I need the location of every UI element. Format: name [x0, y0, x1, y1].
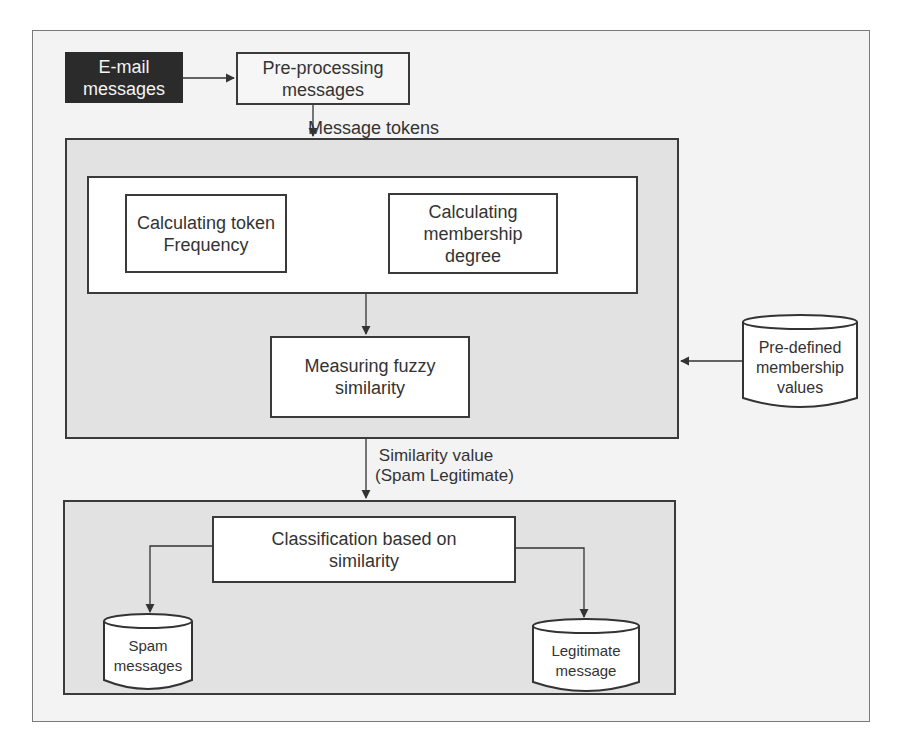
email-label-2: messages	[83, 78, 165, 100]
membership-label-2: membership	[423, 223, 522, 245]
predefined-label-1: Pre-defined	[740, 338, 860, 358]
membership-degree-node: Calculating membership degree	[388, 193, 558, 274]
message-tokens-label: Message tokens	[308, 118, 439, 138]
token-frequency-label-1: Calculating token	[137, 212, 275, 234]
classification-node: Classification based on similarity	[212, 516, 516, 583]
predefined-membership-datastore: Pre-defined membership values	[740, 312, 860, 412]
membership-label-3: degree	[445, 245, 501, 267]
token-frequency-node: Calculating token Frequency	[125, 194, 287, 273]
membership-label-1: Calculating	[428, 201, 517, 223]
classification-label-1: Classification based on	[271, 528, 456, 550]
preprocess-label-1: Pre-processing	[262, 57, 383, 79]
legitimate-message-datastore: Legitimate message	[531, 617, 641, 695]
similarity-label-1: Similarity value	[375, 446, 497, 466]
spam-label-2: messages	[102, 656, 194, 676]
similarity-value-label: Similarity value (Spam Legitimate)	[375, 446, 497, 486]
spam-label-1: Spam	[102, 636, 194, 656]
fuzzy-label-1: Measuring fuzzy	[304, 355, 435, 377]
preprocess-label-2: messages	[282, 79, 364, 101]
classification-label-2: similarity	[329, 550, 399, 572]
similarity-label-2: (Spam Legitimate)	[375, 466, 497, 486]
email-label-1: E-mail	[98, 56, 149, 78]
token-frequency-label-2: Frequency	[163, 234, 248, 256]
predefined-label-3: values	[740, 378, 860, 398]
fuzzy-similarity-node: Measuring fuzzy similarity	[270, 336, 470, 418]
legit-label-2: message	[531, 661, 641, 681]
spam-messages-datastore: Spam messages	[102, 612, 194, 694]
email-messages-node: E-mail messages	[65, 52, 183, 103]
predefined-label-2: membership	[740, 358, 860, 378]
preprocessing-node: Pre-processing messages	[236, 52, 410, 105]
legit-label-1: Legitimate	[531, 641, 641, 661]
fuzzy-label-2: similarity	[335, 377, 405, 399]
